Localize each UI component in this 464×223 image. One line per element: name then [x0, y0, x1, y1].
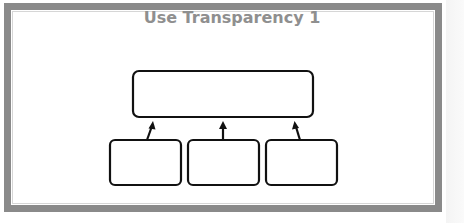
child-box-2 — [188, 140, 259, 185]
arrow-2-icon — [219, 121, 227, 140]
arrow-1-icon — [147, 121, 156, 140]
arrow-3-icon — [292, 121, 300, 140]
hierarchy-diagram — [0, 0, 464, 223]
child-box-1 — [110, 140, 181, 185]
parent-box — [133, 71, 313, 117]
child-box-3 — [266, 140, 337, 185]
